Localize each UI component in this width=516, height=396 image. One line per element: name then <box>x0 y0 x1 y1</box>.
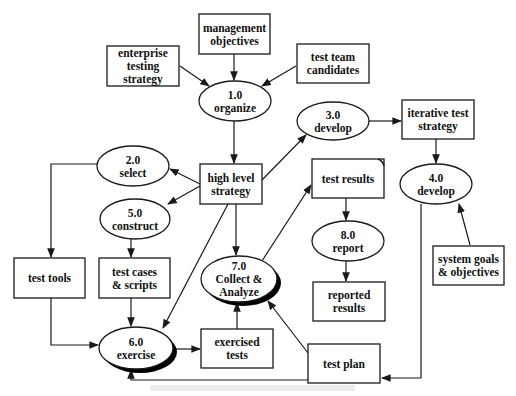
edge-high-level-strategy-to-5.0-construct <box>168 186 200 204</box>
node-6.0-exercise: 6.0exercise <box>99 327 177 373</box>
node-2.0-select: 2.0select <box>97 146 169 186</box>
node-enterprise-testing-strategy: enterprisetestingstrategy <box>107 46 179 86</box>
edge-2.0-select-to-test-tools <box>51 164 97 257</box>
edge-test-plan-to-6.0-exercise <box>131 370 308 380</box>
node-label: management <box>203 22 266 35</box>
faded-caption <box>150 385 355 391</box>
node-8.0-report: 8.0report <box>312 221 384 261</box>
node-label: 7.0 <box>232 260 247 272</box>
node-label: test plan <box>323 358 365 371</box>
node-label: strategy <box>211 185 251 198</box>
node-test-cases-scripts: test cases& scripts <box>99 258 170 298</box>
node-label: 4.0 <box>429 172 444 184</box>
node-label: high level <box>208 172 255 185</box>
node-label: 1.0 <box>228 89 243 101</box>
node-5.0-construct: 5.0construct <box>100 199 170 239</box>
node-test-team-candidates: test teamcandidates <box>297 44 369 83</box>
edge-test-team-candidates-to-1.0-organize <box>262 66 296 86</box>
node-label: select <box>120 167 147 179</box>
node-test-results: test results <box>312 159 384 198</box>
node-label: 3.0 <box>326 109 341 121</box>
node-label: enterprise <box>118 47 168 60</box>
node-label: reported <box>328 289 371 302</box>
edge-test-plan-to-7.0-collect-analyze <box>268 301 308 353</box>
edge-high-level-strategy-to-2.0-select <box>170 169 200 184</box>
node-4.0-develop: 4.0develop <box>400 164 472 204</box>
node-label: strategy <box>418 120 458 133</box>
node-label: exercised <box>214 336 260 348</box>
node-label: testing <box>127 60 160 73</box>
nodes-layer: managementobjectivesenterprisetestingstr… <box>14 14 504 383</box>
node-high-level-strategy: high levelstrategy <box>200 164 262 204</box>
node-iterative-test-strategy: iterative teststrategy <box>402 100 474 139</box>
node-label: results <box>333 302 366 314</box>
node-label: test tools <box>28 272 72 284</box>
edge-system-goals-objectives-to-4.0-develop <box>459 204 470 245</box>
node-label: system goals <box>438 253 500 266</box>
node-label: exercise <box>117 349 156 361</box>
node-label: candidates <box>307 64 360 76</box>
node-label: 2.0 <box>126 154 141 166</box>
node-label: Analyze <box>219 286 259 299</box>
node-test-plan: test plan <box>308 344 380 383</box>
node-label: test results <box>322 173 375 185</box>
node-system-goals-objectives: system goals& objectives <box>433 246 504 285</box>
node-label: tests <box>226 349 248 361</box>
node-label: report <box>332 242 363 255</box>
node-label: organize <box>214 102 256 115</box>
edge-enterprise-testing-strategy-to-1.0-organize <box>180 66 209 86</box>
node-7.0-collect-analyze: 7.0Collect &Analyze <box>201 256 281 306</box>
node-label: & scripts <box>112 279 158 292</box>
node-label: 8.0 <box>341 229 356 241</box>
node-1.0-organize: 1.0organize <box>199 81 271 121</box>
node-test-tools: test tools <box>14 258 85 298</box>
node-exercised-tests: exercisedtests <box>201 329 273 368</box>
node-label: develop <box>314 122 352 135</box>
node-label: test team <box>311 51 356 63</box>
edge-high-level-strategy-to-3.0-develop <box>262 135 306 180</box>
node-label: strategy <box>123 73 163 86</box>
node-label: 5.0 <box>128 207 143 219</box>
node-label: test cases <box>112 266 158 278</box>
edge-7.0-collect-analyze-to-test-results <box>262 185 311 261</box>
node-3.0-develop: 3.0develop <box>297 102 369 140</box>
node-label: develop <box>417 185 455 198</box>
node-label: & objectives <box>438 266 500 279</box>
node-label: Collect & <box>216 273 263 285</box>
edge-test-tools-to-6.0-exercise <box>51 298 98 345</box>
node-label: 6.0 <box>129 336 144 348</box>
node-label: construct <box>112 220 158 232</box>
test-process-diagram: managementobjectivesenterprisetestingstr… <box>0 0 516 396</box>
node-label: objectives <box>210 35 259 48</box>
node-label: iterative test <box>408 107 469 119</box>
node-management-objectives: managementobjectives <box>199 14 270 54</box>
edge-4.0-develop-to-test-plan <box>382 204 421 378</box>
node-reported-results: reportedresults <box>313 282 385 321</box>
